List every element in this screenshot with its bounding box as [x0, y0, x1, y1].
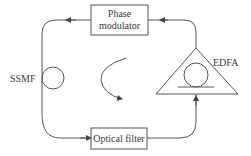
ssmf-fiber-coil: SSMF	[10, 67, 64, 89]
curved-arrow-icon	[101, 58, 126, 99]
fiber-path-top-right	[148, 20, 196, 48]
edfa-label: EDFA	[213, 57, 239, 68]
circulation-direction-arrow	[101, 58, 126, 99]
edfa-amplifier: EDFA	[156, 48, 239, 94]
ring-laser-diagram: Phase modulator Optical filter SSMF EDFA	[0, 0, 251, 156]
phase-modulator-box: Phase modulator	[91, 5, 148, 35]
optical-filter-label: Optical filter	[93, 133, 145, 144]
fiber-path-top-left	[42, 20, 91, 138]
phase-modulator-label-line2: modulator	[99, 20, 141, 31]
phase-modulator-label-line1: Phase	[108, 8, 132, 19]
fiber-path-bottom-right	[147, 94, 196, 138]
ssmf-label: SSMF	[10, 73, 36, 84]
fiber-coil-icon	[42, 67, 64, 89]
optical-filter-box: Optical filter	[91, 128, 147, 149]
